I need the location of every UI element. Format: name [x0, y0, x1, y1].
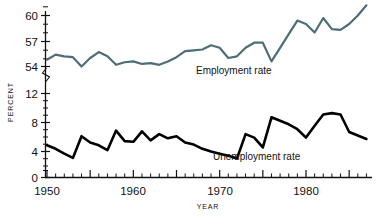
x-tick-label: 1960: [120, 185, 146, 197]
employment-rate-line: [47, 5, 366, 66]
y-tick-label: 12: [25, 88, 38, 100]
employment-rate-label: Employment rate: [196, 65, 272, 76]
y-tick-label: 60: [25, 10, 38, 22]
y-tick-label: 4: [32, 146, 39, 158]
y-tick-label: 54: [25, 61, 38, 73]
y-axis-title: PERCENT: [7, 82, 14, 122]
x-tick-label: 1950: [34, 185, 60, 197]
unemployment-rate-line: [47, 113, 366, 159]
x-axis-ticks: [47, 170, 366, 178]
x-axis-title: YEAR: [197, 203, 220, 210]
x-tick-label: 1970: [207, 185, 233, 197]
y-tick-labels: 60 57 54 12 8 4 0: [25, 10, 38, 184]
unemployment-employment-line-chart: 60 57 54 12 8 4 0 PERCENT 1950 1960 1970…: [0, 0, 376, 217]
y-tick-label: 0: [32, 172, 38, 184]
axes: [45, 11, 372, 178]
y-tick-label: 8: [32, 117, 38, 129]
x-tick-labels: 1950 1960 1970 1980: [34, 185, 319, 197]
unemployment-rate-label: Unemployment rate: [213, 151, 301, 162]
y-tick-label: 57: [25, 36, 38, 48]
x-tick-label: 1980: [293, 185, 319, 197]
chart-canvas: 60 57 54 12 8 4 0 PERCENT 1950 1960 1970…: [0, 0, 376, 217]
